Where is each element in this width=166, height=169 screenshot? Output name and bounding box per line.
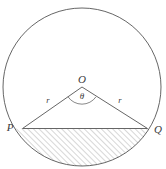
label-point-p: P bbox=[6, 121, 14, 133]
geometry-figure: O θ P Q r r bbox=[0, 0, 166, 169]
label-point-q: Q bbox=[154, 123, 162, 135]
circle-segment-diagram: O θ P Q r r bbox=[0, 0, 166, 169]
label-angle-theta: θ bbox=[80, 91, 85, 101]
label-center-o: O bbox=[78, 73, 86, 85]
